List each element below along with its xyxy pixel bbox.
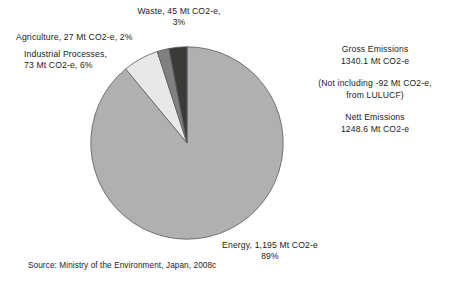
slice-label-energy-line1: Energy, 1,195 Mt CO2-e xyxy=(195,240,345,251)
source-caption: Source: Ministry of the Environment, Jap… xyxy=(28,261,216,270)
pie-chart-svg xyxy=(90,46,284,240)
slice-label-industrial-line1: Industrial Processes, xyxy=(24,49,164,60)
slice-label-industrial-line2: 73 Mt CO2-e, 6% xyxy=(24,60,164,71)
slice-label-waste-line2: 3% xyxy=(113,17,245,28)
emissions-summary-block: Gross Emissions 1340.1 Mt CO2-e (Not inc… xyxy=(300,44,450,136)
gross-emissions-note: Gross Emissions 1340.1 Mt CO2-e xyxy=(300,44,450,67)
slice-label-energy: Energy, 1,195 Mt CO2-e 89% xyxy=(195,240,345,263)
slice-label-industrial-processes: Industrial Processes, 73 Mt CO2-e, 6% xyxy=(24,49,164,72)
slice-label-waste: Waste, 45 Mt CO2-e, 3% xyxy=(113,6,245,29)
slice-label-agriculture-line1: Agriculture, 27 Mt CO2-e, 2% xyxy=(16,32,206,43)
slice-label-waste-line1: Waste, 45 Mt CO2-e, xyxy=(113,6,245,17)
slice-label-agriculture: Agriculture, 27 Mt CO2-e, 2% xyxy=(16,32,206,43)
gross-emissions-title: Gross Emissions xyxy=(300,44,450,56)
lulucf-note-line1: (Not including -92 Mt CO2-e, xyxy=(300,78,450,90)
chart-page: Waste, 45 Mt CO2-e, 3% Agriculture, 27 M… xyxy=(0,0,457,281)
lulucf-note: (Not including -92 Mt CO2-e, from LULUCF… xyxy=(300,78,450,101)
nett-emissions-note: Nett Emissions 1248.6 Mt CO2-e xyxy=(300,112,450,135)
nett-emissions-value: 1248.6 Mt CO2-e xyxy=(300,124,450,136)
lulucf-note-line2: from LULUCF) xyxy=(300,90,450,102)
nett-emissions-title: Nett Emissions xyxy=(300,112,450,124)
gross-emissions-value: 1340.1 Mt CO2-e xyxy=(300,56,450,68)
slice-label-energy-line2: 89% xyxy=(195,251,345,262)
pie-slice-group xyxy=(91,47,283,239)
pie-chart xyxy=(90,46,284,240)
